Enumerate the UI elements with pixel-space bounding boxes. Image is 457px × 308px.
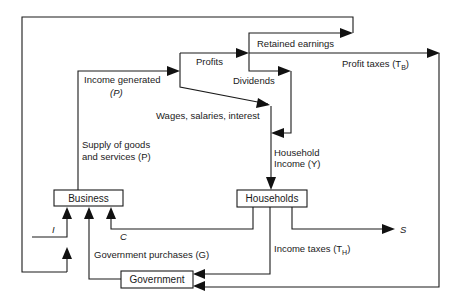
supply-label-line2: and services (P) — [82, 151, 151, 162]
svg-text:Profit taxes (TB): Profit taxes (TB) — [342, 58, 409, 71]
investment-label: I — [52, 224, 55, 235]
retained-earnings-loop — [22, 17, 353, 272]
savings-label: S — [400, 224, 407, 235]
government-label: Government — [129, 274, 184, 285]
government-node: Government — [121, 271, 193, 288]
retained-earnings-label: Retained earnings — [257, 38, 334, 49]
savings-flow — [292, 207, 395, 234]
supply-label-line1: Supply of goods — [82, 139, 150, 150]
consumption-label: C — [120, 231, 127, 242]
consumption-flow — [106, 207, 253, 229]
profits-label: Profits — [196, 56, 223, 67]
business-node: Business — [54, 190, 123, 206]
circular-flow-diagram: Business Households Government Income ge… — [0, 0, 457, 308]
svg-text:Income taxes (TH): Income taxes (TH) — [274, 243, 350, 256]
business-label: Business — [68, 193, 109, 204]
income-taxes-label: Income taxes (TH) — [274, 243, 350, 256]
household-income-line2: Income (Y) — [274, 158, 320, 169]
profit-taxes-label: Profit taxes (TB) — [342, 58, 409, 71]
households-label: Households — [246, 193, 299, 204]
dividends-flow — [249, 53, 291, 138]
wages-label: Wages, salaries, interest — [156, 110, 260, 121]
income-generated-symbol: (P) — [110, 87, 123, 98]
households-node: Households — [237, 190, 307, 207]
dividends-label: Dividends — [233, 75, 275, 86]
investment-flow — [32, 207, 72, 272]
household-income-line1: Household — [274, 147, 319, 158]
income-generated-label: Income generated — [84, 74, 161, 85]
government-purchases-label: Government purchases (G) — [94, 249, 209, 260]
